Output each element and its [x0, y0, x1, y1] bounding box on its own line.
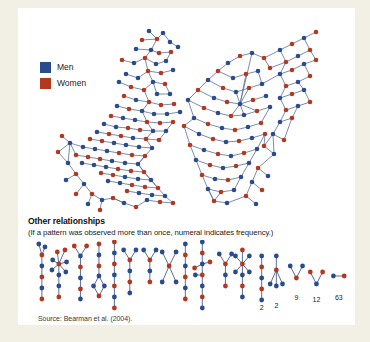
source-note: Source: Bearman et al. (2004).: [38, 315, 132, 322]
pattern-node-woman: [183, 297, 188, 302]
pattern-node-woman: [223, 262, 228, 267]
network-node-woman: [74, 172, 79, 177]
network-node-woman: [188, 143, 193, 148]
network-node-man: [224, 140, 229, 145]
network-node-woman: [88, 137, 93, 142]
legend-label-men: Men: [57, 62, 74, 73]
pattern-node-man: [97, 253, 102, 258]
network-node-woman: [284, 108, 289, 113]
network-node-woman: [202, 106, 207, 111]
network-node-man: [132, 61, 137, 66]
pattern-node-man: [97, 274, 102, 279]
network-node-woman: [234, 164, 239, 169]
pattern-node-woman: [167, 264, 172, 269]
pattern-node-woman: [112, 262, 117, 267]
network-node-man: [134, 47, 139, 52]
network-node-man: [220, 126, 225, 131]
network-node-woman: [74, 192, 79, 197]
pattern-node-woman: [56, 262, 61, 267]
pattern-node-woman: [240, 284, 245, 289]
network-node-woman: [126, 126, 131, 131]
pattern-node-man: [141, 248, 146, 253]
network-node-woman: [127, 107, 132, 112]
pattern-nodes: [36, 240, 346, 310]
network-node-man: [64, 178, 69, 183]
network-node-man: [136, 162, 141, 167]
pattern-node-woman: [294, 276, 299, 281]
legend-swatch-women-icon: [40, 78, 51, 89]
pattern-node-man: [268, 282, 273, 287]
network-node-woman: [238, 54, 243, 59]
network-node-woman: [147, 100, 152, 105]
pattern-node-woman: [192, 266, 197, 271]
network-node-man: [206, 187, 211, 192]
pattern-node-man: [183, 242, 188, 247]
network-node-man: [151, 129, 156, 134]
network-node-woman: [90, 192, 95, 197]
network-node-man: [176, 45, 181, 50]
network-node-man: [112, 141, 117, 146]
pattern-node-man: [233, 254, 238, 259]
network-node-woman: [143, 154, 148, 159]
network-node-woman: [140, 38, 145, 43]
pattern-node-woman: [147, 258, 152, 263]
network-node-man: [150, 193, 155, 198]
network-node-man: [197, 132, 202, 137]
network-node-woman: [99, 171, 104, 176]
pattern-node-woman: [56, 295, 61, 300]
network-node-man: [260, 82, 265, 87]
network-node-woman: [242, 151, 247, 156]
network-node-woman: [233, 128, 238, 133]
legend-item-women: Women: [40, 76, 86, 90]
network-node-man: [213, 177, 218, 182]
pattern-node-woman: [308, 270, 313, 275]
network-node-woman: [229, 114, 234, 119]
pattern-node-woman: [200, 273, 205, 278]
pattern-node-man: [121, 248, 126, 253]
pattern-frequency-labels: 2291263: [260, 294, 343, 311]
network-node-woman: [56, 150, 61, 155]
network-node-woman: [100, 139, 105, 144]
network-node-man: [115, 104, 120, 109]
network-node-man: [186, 98, 191, 103]
network-node-man: [206, 78, 211, 83]
network-node-woman: [196, 88, 201, 93]
network-node-man: [150, 146, 155, 151]
pattern-node-woman: [274, 268, 279, 273]
network-node-woman: [308, 48, 313, 53]
network-node-man: [234, 90, 239, 95]
network-node-man: [137, 145, 142, 150]
network-node-man: [278, 72, 283, 77]
pattern-node-man: [200, 284, 205, 289]
network-node-woman: [157, 138, 162, 143]
network-node-man: [247, 161, 252, 166]
pattern-node-woman: [240, 248, 245, 253]
pattern-node-man: [134, 248, 139, 253]
network-node-man: [118, 181, 123, 186]
network-node-man: [256, 69, 261, 74]
network-node-man: [302, 62, 307, 67]
network-node-man: [168, 92, 173, 97]
network-node-man: [93, 147, 98, 152]
network-node-man: [123, 175, 128, 180]
network-node-woman: [282, 138, 287, 143]
network-node-man: [136, 76, 141, 81]
network-node-woman: [158, 121, 163, 126]
pattern-node-man: [91, 284, 96, 289]
pattern-node-man: [112, 251, 117, 256]
network-node-woman: [308, 100, 313, 105]
network-node-woman: [171, 120, 176, 125]
network-node-man: [171, 68, 176, 73]
network-node-woman: [206, 122, 211, 127]
pattern-node-woman: [259, 287, 264, 292]
network-node-man: [178, 110, 183, 115]
pattern-node-man: [160, 280, 165, 285]
pattern-frequency-label: 12: [313, 296, 321, 303]
pattern-node-man: [147, 269, 152, 274]
network-node-woman: [111, 173, 116, 178]
network-node-woman: [98, 157, 103, 162]
pattern-node-man: [154, 248, 159, 253]
network-node-man: [122, 201, 127, 206]
network-node-man: [110, 159, 115, 164]
network-node-man: [164, 59, 169, 64]
